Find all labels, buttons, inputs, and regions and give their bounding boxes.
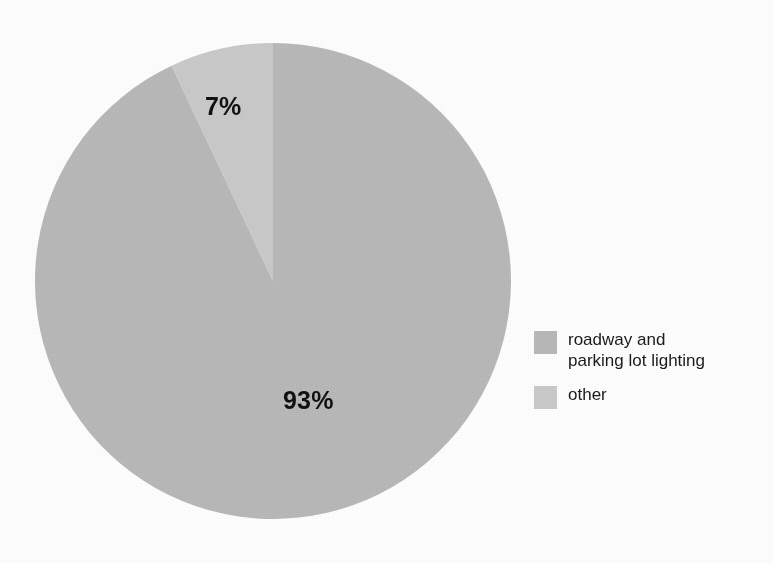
legend-label-roadway: roadway and parking lot lighting	[568, 329, 705, 371]
legend-item-roadway[interactable]: roadway and parking lot lighting	[534, 329, 766, 371]
pie-plot-area	[35, 43, 511, 519]
legend-swatch-roadway-icon	[534, 331, 557, 354]
chart-legend: roadway and parking lot lighting other	[534, 329, 766, 422]
legend-label-other: other	[568, 384, 607, 405]
pie-chart-figure: 7% 93% roadway and parking lot lighting …	[0, 0, 773, 563]
legend-swatch-other-icon	[534, 386, 557, 409]
legend-item-other[interactable]: other	[534, 384, 766, 409]
slice-label-roadway: 93%	[283, 388, 334, 413]
pie-svg	[35, 43, 511, 519]
slice-label-other: 7%	[205, 94, 242, 119]
